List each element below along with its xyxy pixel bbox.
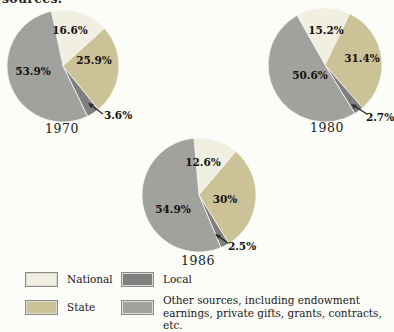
pct-label-1980-national: 15.2%	[308, 24, 344, 36]
pct-label-1986-other: 54.9%	[155, 203, 191, 215]
legend-item-state: State	[25, 300, 95, 315]
pct-label-1986-local: 2.5%	[228, 240, 256, 252]
pct-label-1970-local: 3.6%	[104, 109, 132, 121]
pct-label-1986-state: 30%	[213, 193, 238, 205]
year-label-1980: 1980	[310, 120, 344, 135]
pct-label-1970-national: 16.6%	[52, 24, 88, 36]
legend-label-national: National	[67, 273, 113, 286]
pct-label-1970-other: 53.9%	[15, 65, 51, 77]
pct-label-1980-state: 31.4%	[344, 52, 380, 64]
year-label-1970: 1970	[45, 121, 79, 136]
legend-label-other: Other sources, including endowmentearnin…	[163, 294, 394, 332]
legend-label-state: State	[67, 301, 95, 314]
legend-item-other: Other sources, including endowmentearnin…	[121, 294, 394, 332]
pct-label-1980-other: 50.6%	[292, 69, 328, 81]
legend-item-national: National	[25, 272, 113, 287]
year-label-1986: 1986	[181, 253, 215, 268]
legend-swatch-local	[121, 272, 154, 287]
pct-label-1986-national: 12.6%	[185, 156, 221, 168]
pct-label-1970-state: 25.9%	[76, 54, 112, 66]
legend-swatch-state	[25, 300, 58, 315]
legend-swatch-national	[25, 272, 58, 287]
legend-item-local: Local	[121, 272, 192, 287]
pie-charts-figure: sources. 16.6%25.9%3.6%53.9%197015.2%31.…	[0, 0, 394, 332]
legend-label-local: Local	[163, 273, 192, 286]
pct-label-1980-local: 2.7%	[366, 111, 394, 123]
legend-swatch-other	[121, 300, 154, 315]
